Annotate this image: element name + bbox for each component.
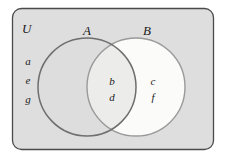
- element-g: g: [25, 94, 31, 105]
- a-intersect-b-elements: b d: [106, 76, 118, 103]
- element-c: c: [151, 76, 156, 87]
- element-d: d: [109, 92, 115, 103]
- element-e: e: [26, 75, 31, 86]
- outside-both-sets-elements: a e g: [22, 56, 34, 105]
- element-f: f: [151, 92, 154, 103]
- element-b: b: [109, 76, 115, 87]
- universe-label: U: [22, 22, 31, 35]
- venn-diagram-figure: U A B a e g b d c f: [0, 0, 226, 162]
- b-only-elements: c f: [147, 76, 159, 103]
- set-b-label: B: [140, 24, 154, 37]
- set-a-label: A: [80, 24, 94, 37]
- element-a: a: [25, 56, 31, 67]
